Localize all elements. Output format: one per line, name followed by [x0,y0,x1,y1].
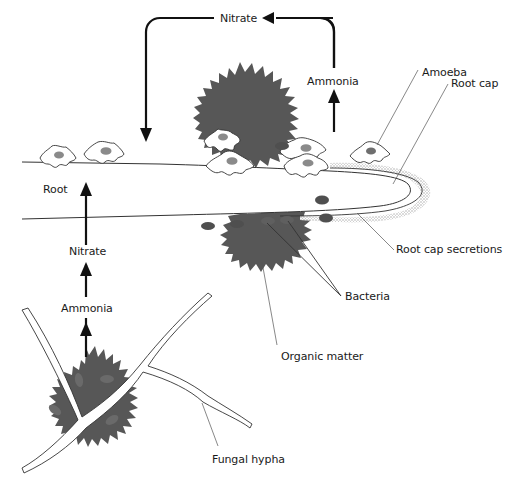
leader-fungal-hypha [202,403,218,446]
label-bacteria: Bacteria [345,291,390,303]
label-fungal-hypha: Fungal hypha [212,454,285,466]
bacterium [315,196,329,205]
amoeba-7 [350,142,390,164]
arrow-top-right-segment [276,18,334,68]
label-nitrate-left: Nitrate [69,246,106,258]
label-root-cap: Root cap [451,78,498,90]
label-nitrate-top: Nitrate [220,13,257,25]
label-organic-matter: Organic matter [281,351,363,363]
label-ammonia-left: Ammonia [61,303,113,315]
arrowhead-up [80,322,92,336]
arrowhead-left [262,12,274,24]
arrowhead-down [140,128,152,142]
bacterium [100,375,114,383]
arrowhead-up [328,89,340,103]
bacterium [230,220,244,228]
leader-organic-matter [262,262,277,345]
label-root: Root [43,184,68,196]
organic-matter-lower-left [49,345,138,447]
leader-amoeba [377,70,418,145]
bacterium [275,142,289,150]
amoeba-2 [84,141,124,163]
fungal-hypha [22,293,252,473]
bacterium [319,214,333,223]
leader-root-cap [393,84,448,184]
bacterium [201,222,215,230]
bacterium [280,216,294,224]
label-ammonia-top: Ammonia [307,76,359,88]
rhizosphere-diagram: Nitrate Ammonia Amoeba Root cap Root Nit… [0,0,515,492]
label-root-cap-secretions: Root cap secretions [396,244,502,256]
arrowhead-up [80,262,92,276]
leader-bacteria-2 [288,221,341,296]
